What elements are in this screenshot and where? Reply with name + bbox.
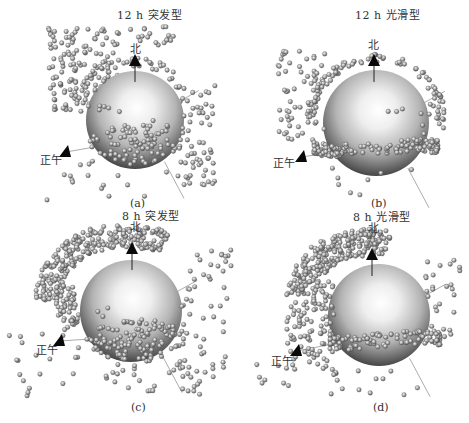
north-label: 北 [130, 44, 141, 55]
noon-label: 正午 [36, 345, 58, 356]
panel-d [254, 227, 462, 397]
panel-title: 12 h 突发型 [117, 10, 182, 21]
panel-caption: (d) [373, 402, 389, 413]
panel-caption: (a) [130, 198, 145, 209]
north-label: 北 [368, 223, 379, 234]
panel-caption: (b) [371, 198, 387, 209]
noon-label: 正午 [40, 155, 62, 166]
north-label: 北 [130, 222, 141, 233]
panel-title: 8 h 光滑型 [353, 212, 411, 223]
noon-label: 正午 [271, 356, 293, 367]
earth-sphere [328, 264, 430, 366]
panel-b [276, 49, 446, 208]
panel-caption: (c) [131, 402, 146, 413]
panel-c [7, 224, 233, 399]
panel-title: 12 h 光滑型 [355, 10, 420, 21]
noon-label: 正午 [273, 158, 295, 169]
earth-sphere [323, 70, 429, 176]
noon-arrow-icon [295, 150, 307, 162]
north-label: 北 [368, 40, 379, 51]
